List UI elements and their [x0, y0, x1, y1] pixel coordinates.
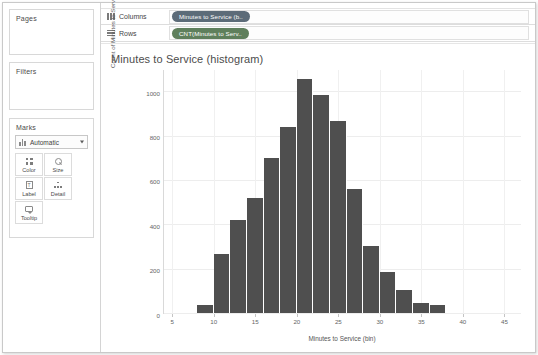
y-tick-label: 400 [150, 222, 160, 229]
histogram-bar[interactable] [247, 198, 264, 313]
plot-wrapper: Count of Minutes to Service 020040060080… [101, 70, 529, 352]
size-circle-icon [55, 157, 62, 166]
marks-color-button[interactable]: Color [15, 153, 43, 176]
marks-buttons-grid: Color Size T Label [15, 153, 88, 225]
histogram-bar[interactable] [380, 272, 397, 313]
histogram-bar[interactable] [297, 79, 314, 313]
marks-detail-button[interactable]: Detail [44, 177, 72, 200]
pages-shelf-label: Pages [10, 10, 93, 26]
histogram-bar[interactable] [264, 158, 281, 313]
x-tick-label: 15 [252, 318, 259, 325]
y-axis-title: Count of Minutes to Service [109, 0, 116, 110]
x-gridline [172, 70, 173, 314]
filters-shelf-card[interactable]: Filters [9, 62, 94, 110]
x-tick-mark [380, 314, 381, 317]
rows-dropzone[interactable]: CNT(Minutes to Serv.. [169, 26, 529, 40]
marks-size-label: Size [53, 167, 64, 173]
marks-color-label: Color [22, 167, 35, 173]
label-text-icon: T [26, 181, 33, 190]
columns-shelf-label: Columns [119, 13, 147, 20]
tableau-worksheet-window: Pages Filters Marks Automatic Color [2, 2, 536, 353]
histogram-bar[interactable] [280, 127, 297, 313]
chart-view: Minutes to Service (histogram) Count of … [101, 43, 535, 352]
y-tick-label: 1000 [146, 89, 160, 96]
x-tick-mark [255, 314, 256, 317]
marks-label-label: Label [22, 191, 36, 197]
x-axis-title: Minutes to Service (bin) [163, 335, 521, 342]
left-side-panel: Pages Filters Marks Automatic Color [3, 3, 101, 352]
x-gridline [504, 70, 505, 314]
y-tick-label: 0 [157, 311, 160, 318]
histogram-plot-area[interactable]: 0200400600800100051015202530354045 [163, 70, 521, 314]
mark-type-dropdown[interactable]: Automatic [15, 135, 88, 149]
x-tick-label: 45 [501, 318, 508, 325]
marks-label-button[interactable]: T Label [15, 177, 43, 200]
x-tick-label: 35 [418, 318, 425, 325]
marks-card-label: Marks [10, 119, 93, 134]
x-tick-label: 40 [459, 318, 466, 325]
histogram-bar[interactable] [197, 305, 214, 313]
histogram-bar[interactable] [313, 95, 330, 313]
rows-pill[interactable]: CNT(Minutes to Serv.. [172, 28, 249, 39]
histogram-bar[interactable] [396, 290, 413, 313]
worksheet-area: Columns Minutes to Service (b.. Rows CNT… [101, 3, 535, 352]
histogram-bar[interactable] [347, 189, 364, 313]
chart-title: Minutes to Service (histogram) [101, 44, 535, 65]
x-tick-mark [338, 314, 339, 317]
x-tick-mark [421, 314, 422, 317]
x-tick-mark [214, 314, 215, 317]
x-tick-label: 30 [376, 318, 383, 325]
rows-shelf-row: Rows CNT(Minutes to Serv.. [101, 25, 535, 42]
histogram-bar[interactable] [330, 121, 347, 313]
mark-type-value: Automatic [30, 139, 59, 146]
marks-detail-label: Detail [51, 191, 65, 197]
x-gridline [421, 70, 422, 314]
marks-tooltip-button[interactable]: Tooltip [15, 201, 43, 224]
rows-shelf-label: Rows [119, 30, 137, 37]
color-squares-icon [26, 157, 33, 166]
histogram-bar[interactable] [413, 303, 430, 313]
detail-dots-icon [54, 181, 62, 190]
columns-dropzone[interactable]: Minutes to Service (b.. [169, 10, 529, 24]
marks-tooltip-label: Tooltip [21, 215, 37, 221]
x-tick-mark [172, 314, 173, 317]
x-tick-label: 20 [293, 318, 300, 325]
columns-shelf-row: Columns Minutes to Service (b.. [101, 8, 535, 25]
pages-shelf-card[interactable]: Pages [9, 9, 94, 55]
x-tick-label: 25 [335, 318, 342, 325]
x-gridline [463, 70, 464, 314]
tooltip-bubble-icon [25, 205, 33, 214]
y-gridline [164, 91, 521, 92]
histogram-bar[interactable] [214, 254, 231, 313]
x-tick-mark [463, 314, 464, 317]
y-tick-label: 200 [150, 267, 160, 274]
columns-pill[interactable]: Minutes to Service (b.. [172, 11, 250, 22]
histogram-bar[interactable] [230, 220, 247, 313]
x-tick-label: 5 [171, 318, 174, 325]
y-tick-label: 800 [150, 134, 160, 141]
filters-shelf-label: Filters [10, 63, 93, 79]
chevron-down-icon[interactable] [80, 141, 84, 144]
bar-chart-icon [19, 139, 27, 146]
marks-card: Marks Automatic Color Size [9, 118, 94, 238]
y-tick-label: 600 [150, 178, 160, 185]
histogram-bar[interactable] [430, 305, 447, 313]
marks-size-button[interactable]: Size [44, 153, 72, 176]
y-gridline [164, 313, 521, 314]
x-tick-mark [504, 314, 505, 317]
x-tick-label: 10 [210, 318, 217, 325]
histogram-bar[interactable] [363, 246, 380, 313]
x-tick-mark [297, 314, 298, 317]
